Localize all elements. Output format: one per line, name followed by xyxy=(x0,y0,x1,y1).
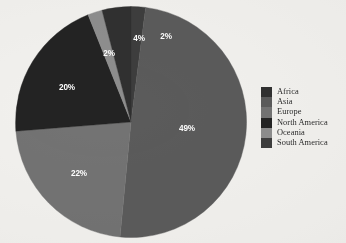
pie-label-europe: 22% xyxy=(71,169,88,178)
legend-label-oceania: Oceania xyxy=(277,128,305,138)
legend-item-africa[interactable]: Africa xyxy=(261,87,345,97)
legend-item-oceania[interactable]: Oceania xyxy=(261,128,345,138)
chart-legend: Africa Asia Europe North America Oceania… xyxy=(261,87,345,148)
pie-chart-canvas: 49%22%20%2%4%2% xyxy=(15,6,247,238)
pie-label-africa: 4% xyxy=(133,34,145,43)
pie-chart-figure: 49%22%20%2%4%2% Africa Asia Europe North… xyxy=(0,0,346,243)
legend-item-europe[interactable]: Europe xyxy=(261,107,345,117)
legend-label-europe: Europe xyxy=(277,107,301,117)
legend-item-south-america[interactable]: South America xyxy=(261,138,345,148)
pie-label-asia: 49% xyxy=(179,124,196,133)
legend-swatch-north-america xyxy=(261,118,272,128)
legend-label-north-america: North America xyxy=(277,118,328,128)
legend-label-africa: Africa xyxy=(277,87,299,97)
pie-label-south-america: 2% xyxy=(160,32,172,41)
legend-label-south-america: South America xyxy=(277,138,328,148)
pie-slice-europe[interactable] xyxy=(16,122,131,237)
pie-svg: 49%22%20%2%4%2% xyxy=(15,6,247,238)
pie-label-oceania: 2% xyxy=(103,49,115,58)
pie-label-north-america: 20% xyxy=(59,83,76,92)
legend-swatch-south-america xyxy=(261,138,272,148)
legend-swatch-africa xyxy=(261,87,272,97)
pie-slice-group xyxy=(15,6,246,237)
legend-label-asia: Asia xyxy=(277,97,293,107)
legend-swatch-europe xyxy=(261,107,272,117)
legend-swatch-asia xyxy=(261,97,272,107)
legend-item-asia[interactable]: Asia xyxy=(261,97,345,107)
legend-swatch-oceania xyxy=(261,128,272,138)
legend-item-north-america[interactable]: North America xyxy=(261,118,345,128)
